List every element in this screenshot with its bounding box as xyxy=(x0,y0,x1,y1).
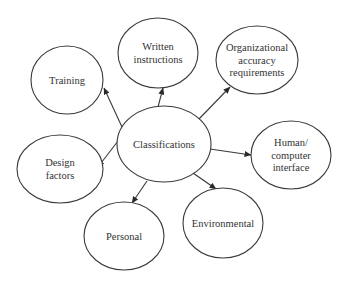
node-label: computer xyxy=(271,150,311,161)
center-node-classifications: Classifications xyxy=(117,106,211,182)
node-label: Written xyxy=(142,41,174,52)
node-label: accuracy xyxy=(238,55,276,66)
node-label: Environmental xyxy=(192,218,254,229)
node-label: interface xyxy=(273,162,310,173)
arrow-training xyxy=(104,88,122,127)
node-organizational-accuracy-requirements: Organizationalaccuracyrequirements xyxy=(216,26,298,94)
node-label: Personal xyxy=(106,231,142,242)
arrow-line xyxy=(158,88,163,107)
classifications-diagram: TrainingWritteninstructionsOrganizationa… xyxy=(0,0,346,283)
node-human-computer-interface: Human/computerinterface xyxy=(251,121,331,189)
arrow-line xyxy=(210,149,251,155)
arrow-line xyxy=(193,173,216,189)
node-design-factors: Designfactors xyxy=(17,135,103,203)
node-personal: Personal xyxy=(84,202,164,270)
arrow-line xyxy=(132,181,147,203)
node-label: instructions xyxy=(134,54,183,65)
node-written-instructions: Writteninstructions xyxy=(118,18,198,88)
arrow-line xyxy=(198,87,230,120)
node-environmental: Environmental xyxy=(183,188,263,258)
node-training: Training xyxy=(31,46,103,114)
arrow-human-computer-interface xyxy=(210,149,251,155)
node-label: Design xyxy=(45,157,75,168)
arrow-line xyxy=(104,88,122,127)
node-label: Organizational xyxy=(226,42,288,53)
node-label: requirements xyxy=(230,67,285,78)
arrow-environmental xyxy=(193,173,216,189)
node-label: Human/ xyxy=(274,137,308,148)
node-label: Training xyxy=(49,75,86,86)
node-label: factors xyxy=(46,170,75,181)
nodes: TrainingWritteninstructionsOrganizationa… xyxy=(17,18,331,270)
arrow-written-instructions xyxy=(158,88,163,107)
arrow-personal xyxy=(132,181,147,203)
node-label: Classifications xyxy=(133,139,195,150)
arrow-organizational-accuracy-requirements xyxy=(198,87,230,120)
